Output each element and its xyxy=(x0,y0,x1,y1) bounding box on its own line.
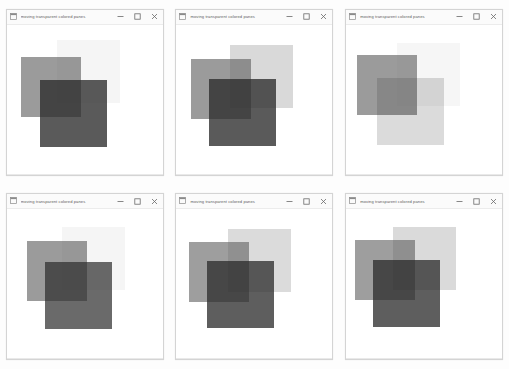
window-controls xyxy=(112,194,163,209)
app-window-5[interactable]: moving transparent colored panes xyxy=(175,193,333,360)
drawing-canvas xyxy=(7,25,163,176)
window-title: moving transparent colored panes xyxy=(190,198,281,205)
titlebar[interactable]: moving transparent colored panes xyxy=(346,10,502,25)
window-bottom-edge xyxy=(176,174,332,175)
app-window-icon xyxy=(349,13,357,21)
maximize-button[interactable] xyxy=(129,10,146,24)
maximize-button[interactable] xyxy=(468,194,485,208)
pane-dark xyxy=(209,79,276,146)
close-button[interactable] xyxy=(315,194,332,208)
close-button[interactable] xyxy=(485,10,502,24)
minimize-button[interactable] xyxy=(281,194,298,208)
app-window-1[interactable]: moving transparent colored panes xyxy=(6,9,164,176)
minimize-button[interactable] xyxy=(451,194,468,208)
grid-cell-3: moving transparent colored panes xyxy=(339,0,509,185)
drawing-canvas xyxy=(346,25,502,176)
window-title: moving transparent colored panes xyxy=(360,198,451,205)
maximize-button[interactable] xyxy=(298,10,315,24)
pane-dark xyxy=(45,262,112,329)
close-button[interactable] xyxy=(485,194,502,208)
window-title: moving transparent colored panes xyxy=(190,13,281,20)
app-window-icon xyxy=(349,197,357,205)
drawing-canvas xyxy=(7,209,163,360)
app-window-icon xyxy=(10,13,18,21)
window-title: moving transparent colored panes xyxy=(21,13,112,20)
app-window-icon xyxy=(10,197,18,205)
drawing-canvas xyxy=(346,209,502,360)
minimize-button[interactable] xyxy=(451,10,468,24)
drawing-canvas xyxy=(176,25,332,176)
titlebar[interactable]: moving transparent colored panes xyxy=(346,194,502,209)
close-button[interactable] xyxy=(146,10,163,24)
grid-cell-1: moving transparent colored panes xyxy=(0,0,170,185)
window-bottom-edge xyxy=(7,358,163,359)
titlebar[interactable]: moving transparent colored panes xyxy=(7,10,163,25)
window-grid: moving transparent colored panesmoving t… xyxy=(0,0,509,369)
titlebar[interactable]: moving transparent colored panes xyxy=(7,194,163,209)
window-controls xyxy=(451,194,502,209)
app-window-icon xyxy=(179,13,187,21)
minimize-button[interactable] xyxy=(112,10,129,24)
minimize-button[interactable] xyxy=(112,194,129,208)
drawing-canvas xyxy=(176,209,332,360)
app-window-2[interactable]: moving transparent colored panes xyxy=(175,9,333,176)
grid-cell-6: moving transparent colored panes xyxy=(339,185,509,369)
window-controls xyxy=(281,194,332,209)
pane-dark xyxy=(377,78,444,145)
window-controls xyxy=(451,9,502,24)
window-controls xyxy=(112,9,163,24)
pane-dark xyxy=(207,261,274,328)
window-controls xyxy=(281,9,332,24)
close-button[interactable] xyxy=(146,194,163,208)
window-title: moving transparent colored panes xyxy=(21,198,112,205)
grid-cell-2: moving transparent colored panes xyxy=(170,0,340,185)
pane-dark xyxy=(40,80,107,147)
app-window-4[interactable]: moving transparent colored panes xyxy=(6,193,164,360)
window-bottom-edge xyxy=(346,358,502,359)
minimize-button[interactable] xyxy=(281,10,298,24)
titlebar[interactable]: moving transparent colored panes xyxy=(176,10,332,25)
window-bottom-edge xyxy=(176,358,332,359)
maximize-button[interactable] xyxy=(129,194,146,208)
grid-cell-5: moving transparent colored panes xyxy=(170,185,340,369)
app-window-3[interactable]: moving transparent colored panes xyxy=(345,9,503,176)
window-bottom-edge xyxy=(346,174,502,175)
pane-dark xyxy=(373,260,440,327)
app-window-icon xyxy=(179,197,187,205)
maximize-button[interactable] xyxy=(468,10,485,24)
app-window-6[interactable]: moving transparent colored panes xyxy=(345,193,503,360)
grid-cell-4: moving transparent colored panes xyxy=(0,185,170,369)
close-button[interactable] xyxy=(315,10,332,24)
titlebar[interactable]: moving transparent colored panes xyxy=(176,194,332,209)
window-bottom-edge xyxy=(7,174,163,175)
maximize-button[interactable] xyxy=(298,194,315,208)
window-title: moving transparent colored panes xyxy=(360,13,451,20)
